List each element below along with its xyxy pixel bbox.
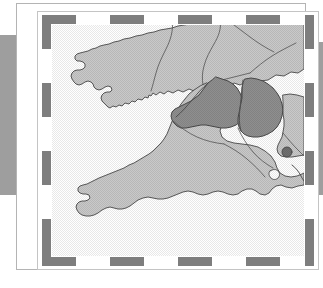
neatline-segment-left: [42, 253, 51, 266]
neatline-segment-top: [110, 15, 144, 24]
neatline-segment-left: [42, 185, 51, 219]
neatline-segment-bottom: [212, 257, 246, 266]
neatline-segment-top: [144, 15, 178, 24]
neatline-segment-right: [305, 185, 314, 219]
map-plot-area: [52, 25, 304, 256]
figure-outer-frame: [16, 3, 306, 270]
map-coast-detail-harbour: [269, 170, 280, 180]
neatline-segment-right: [305, 117, 314, 151]
neatline-segment-left: [42, 49, 51, 83]
neatline-segment-bottom: [76, 257, 110, 266]
neatline-segment-top: [178, 15, 212, 24]
neatline-segment-top: [212, 15, 246, 24]
neatline-segment-left: [42, 219, 51, 253]
figure-stage: [0, 0, 323, 288]
map-site-marker[interactable]: [282, 147, 292, 157]
neatline-segment-right: [305, 151, 314, 185]
map-graphic: [52, 25, 304, 256]
neatline-segment-left: [42, 151, 51, 185]
neatline-segment-bottom: [246, 257, 280, 266]
neatline-segment-right: [305, 219, 314, 253]
neatline-segment-top: [246, 15, 280, 24]
neatline-segment-bottom: [144, 257, 178, 266]
neatline-segment-right: [305, 15, 314, 49]
neatline-segment-left: [42, 83, 51, 117]
neatline-segment-bottom: [110, 257, 144, 266]
map-area-wiltshire: [238, 78, 283, 137]
neatline-segment-right: [305, 83, 314, 117]
neatline-segment-top: [76, 15, 110, 24]
neatline-segment-right: [305, 253, 314, 266]
neatline-segment-left: [42, 15, 51, 49]
neatline-segment-bottom: [178, 257, 212, 266]
neatline-segment-left: [42, 117, 51, 151]
neatline-segment-right: [305, 49, 314, 83]
